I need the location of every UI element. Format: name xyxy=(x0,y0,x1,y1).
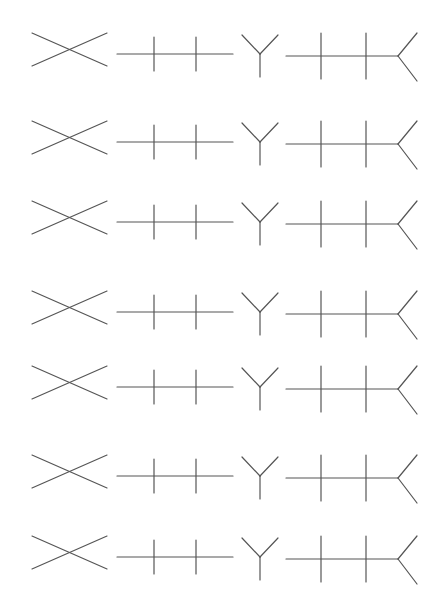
fork-arm-down xyxy=(398,559,417,584)
fork-arm-up xyxy=(398,366,417,389)
y-arm-left xyxy=(242,457,260,476)
y-fork-figure xyxy=(242,123,278,165)
fork-arm-up xyxy=(398,121,417,144)
ticked-forked-line-figure xyxy=(286,366,417,414)
fork-arm-down xyxy=(398,389,417,414)
y-arm-left xyxy=(242,123,260,142)
y-arm-right xyxy=(260,35,278,54)
ticked-line-figure xyxy=(117,125,233,159)
y-arm-left xyxy=(242,35,260,54)
y-fork-figure xyxy=(242,203,278,245)
ticked-line-figure xyxy=(117,370,233,404)
x-cross-figure xyxy=(32,455,107,488)
ticked-forked-line-figure xyxy=(286,455,417,503)
y-arm-left xyxy=(242,538,260,557)
x-cross-figure xyxy=(32,291,107,324)
ticked-line-figure xyxy=(117,37,233,71)
ticked-forked-line-figure xyxy=(286,201,417,249)
line-figures-svg xyxy=(0,0,444,611)
y-fork-figure xyxy=(242,35,278,77)
y-arm-right xyxy=(260,123,278,142)
ticked-forked-line-figure xyxy=(286,33,417,81)
y-arm-left xyxy=(242,203,260,222)
ticked-line-figure xyxy=(117,295,233,329)
ticked-forked-line-figure xyxy=(286,536,417,584)
ticked-line-figure xyxy=(117,205,233,239)
figure-row-2 xyxy=(32,121,417,169)
x-cross-figure xyxy=(32,201,107,234)
ticked-line-figure xyxy=(117,540,233,574)
y-fork-figure xyxy=(242,457,278,499)
ticked-forked-line-figure xyxy=(286,291,417,339)
fork-arm-down xyxy=(398,144,417,169)
fork-arm-up xyxy=(398,33,417,56)
y-arm-right xyxy=(260,203,278,222)
figure-row-4 xyxy=(32,291,417,339)
y-fork-figure xyxy=(242,368,278,410)
figure-row-7 xyxy=(32,536,417,584)
y-fork-figure xyxy=(242,293,278,335)
ticked-line-figure xyxy=(117,459,233,493)
fork-arm-up xyxy=(398,201,417,224)
fork-arm-down xyxy=(398,224,417,249)
fork-arm-down xyxy=(398,478,417,503)
x-cross-figure xyxy=(32,33,107,66)
y-arm-left xyxy=(242,368,260,387)
y-arm-right xyxy=(260,293,278,312)
y-arm-right xyxy=(260,538,278,557)
fork-arm-down xyxy=(398,314,417,339)
fork-arm-up xyxy=(398,536,417,559)
y-arm-right xyxy=(260,368,278,387)
ticked-forked-line-figure xyxy=(286,121,417,169)
y-fork-figure xyxy=(242,538,278,580)
fork-arm-down xyxy=(398,56,417,81)
x-cross-figure xyxy=(32,536,107,569)
figure-sheet xyxy=(0,0,444,611)
x-cross-figure xyxy=(32,121,107,154)
fork-arm-up xyxy=(398,291,417,314)
figure-row-5 xyxy=(32,366,417,414)
figure-row-1 xyxy=(32,33,417,81)
x-cross-figure xyxy=(32,366,107,399)
y-arm-left xyxy=(242,293,260,312)
fork-arm-up xyxy=(398,455,417,478)
y-arm-right xyxy=(260,457,278,476)
figure-row-6 xyxy=(32,455,417,503)
figure-row-3 xyxy=(32,201,417,249)
